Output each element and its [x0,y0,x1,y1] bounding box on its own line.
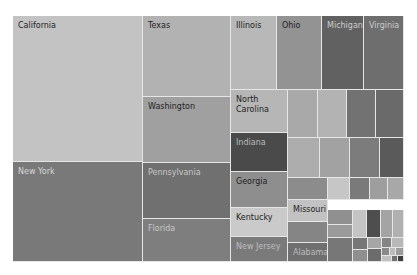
treemap-cell-new-jersey[interactable]: New Jersey [231,237,288,262]
treemap-cell-unlabeled-39[interactable] [353,250,368,262]
treemap-cell-unlabeled-32[interactable] [328,225,353,238]
cell-label: New York [18,167,55,177]
cell-label: Illinois [236,21,261,31]
treemap-cell-unlabeled-18[interactable] [376,90,404,138]
treemap-cell-unlabeled-46[interactable] [396,248,404,256]
treemap-cell-unlabeled-27[interactable] [388,178,404,200]
treemap-cell-unlabeled-47[interactable] [382,256,392,262]
treemap-cell-unlabeled-35[interactable] [367,210,381,238]
treemap-cell-unlabeled-25[interactable] [350,178,370,200]
cell-label: California [18,21,56,31]
cell-label: Alabama [293,248,328,258]
treemap-chart: CaliforniaNew YorkTexasWashingtonPennsyl… [0,0,417,275]
cell-label: Kentucky [236,213,273,223]
treemap-cell-unlabeled-49[interactable] [398,256,404,262]
treemap-cell-unlabeled-26[interactable] [370,178,388,200]
treemap-cell-new-york[interactable]: New York [13,162,143,262]
treemap-cell-unlabeled-19[interactable] [288,138,320,178]
treemap-cell-georgia[interactable]: Georgia [231,172,288,208]
cell-label: Pennsylvania [148,168,201,178]
cell-label: Texas [148,21,170,31]
cell-label: New Jersey [236,242,280,252]
treemap-cell-unlabeled-16[interactable] [318,90,347,138]
treemap-cell-unlabeled-17[interactable] [347,90,376,138]
treemap-cell-virginia[interactable]: Virginia [364,16,404,90]
treemap-cell-unlabeled-43[interactable] [392,238,404,248]
treemap-cell-unlabeled-44[interactable] [382,248,390,256]
cell-label: Florida [148,224,175,234]
cell-label: Missouri [293,205,326,215]
treemap-cell-unlabeled-42[interactable] [382,238,392,248]
cell-label: Washington [148,102,195,112]
treemap-cell-unlabeled-22[interactable] [380,138,404,178]
treemap-cell-unlabeled-24[interactable] [328,178,350,200]
treemap-cell-indiana[interactable]: Indiana [231,133,288,172]
treemap-cell-unlabeled-34[interactable] [353,210,367,238]
cell-label: Ohio [282,21,300,31]
treemap-cell-unlabeled-41[interactable] [368,249,382,262]
treemap-cell-alabama[interactable]: Alabama [288,243,328,262]
treemap-cell-unlabeled-31[interactable] [328,210,353,225]
treemap-cell-washington[interactable]: Washington [143,97,231,163]
treemap-cell-unlabeled-15[interactable] [288,90,318,138]
treemap-cell-missouri[interactable]: Missouri [288,200,328,222]
cell-label: North Carolina [236,95,269,115]
treemap-cell-texas[interactable]: Texas [143,16,231,97]
cell-label: Georgia [236,177,267,187]
cell-label: Virginia [369,21,399,31]
treemap-cell-florida[interactable]: Florida [143,219,231,262]
treemap-cell-unlabeled-21[interactable] [350,138,380,178]
treemap-cell-unlabeled-40[interactable] [368,238,382,249]
treemap-cell-unlabeled-36[interactable] [381,210,393,238]
treemap-cell-unlabeled-20[interactable] [320,138,350,178]
treemap-cell-unlabeled-23[interactable] [288,178,328,200]
treemap-cell-kentucky[interactable]: Kentucky [231,208,288,237]
treemap-cell-unlabeled-29[interactable] [288,222,328,243]
treemap-cell-unlabeled-33[interactable] [328,238,353,262]
treemap-cell-michigan[interactable]: Michigan [322,16,364,90]
treemap-cell-north-carolina[interactable]: North Carolina [231,90,288,133]
cell-label: Michigan [327,21,363,31]
treemap-cell-ohio[interactable]: Ohio [277,16,322,90]
treemap-cell-california[interactable]: California [13,16,143,162]
treemap-cell-pennsylvania[interactable]: Pennsylvania [143,163,231,219]
cell-label: Indiana [236,138,266,148]
treemap-cell-unlabeled-37[interactable] [393,210,404,238]
treemap-cell-unlabeled-38[interactable] [353,238,368,250]
treemap-cell-illinois[interactable]: Illinois [231,16,277,90]
